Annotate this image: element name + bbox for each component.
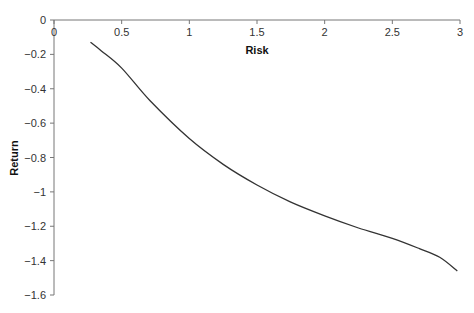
x-tick-label: 3 <box>457 26 463 38</box>
x-tick-label: 2.5 <box>385 26 400 38</box>
y-tick-label: −0.4 <box>24 83 46 95</box>
y-tick-label: −1.4 <box>24 255 46 267</box>
y-tick-label: −1.6 <box>24 289 46 301</box>
x-ticks: 00.511.522.53 <box>51 20 463 38</box>
x-tick-label: 2 <box>322 26 328 38</box>
y-tick-label: −0.2 <box>24 48 46 60</box>
risk-return-chart: 00.511.522.53 0−0.2−0.4−0.6−0.8−1−1.2−1.… <box>0 0 474 313</box>
x-tick-label: 1.5 <box>249 26 264 38</box>
series-line <box>91 42 458 271</box>
x-tick-label: 1 <box>186 26 192 38</box>
x-tick-label: 0 <box>51 26 57 38</box>
y-tick-label: −0.6 <box>24 117 46 129</box>
x-axis-title: Risk <box>245 44 269 56</box>
y-tick-label: 0 <box>40 14 46 26</box>
y-tick-label: −0.8 <box>24 152 46 164</box>
y-tick-label: −1 <box>33 186 46 198</box>
y-ticks: 0−0.2−0.4−0.6−0.8−1−1.2−1.4−1.6 <box>24 14 54 301</box>
x-tick-label: 0.5 <box>114 26 129 38</box>
y-axis-title: Return <box>8 140 20 176</box>
y-tick-label: −1.2 <box>24 220 46 232</box>
